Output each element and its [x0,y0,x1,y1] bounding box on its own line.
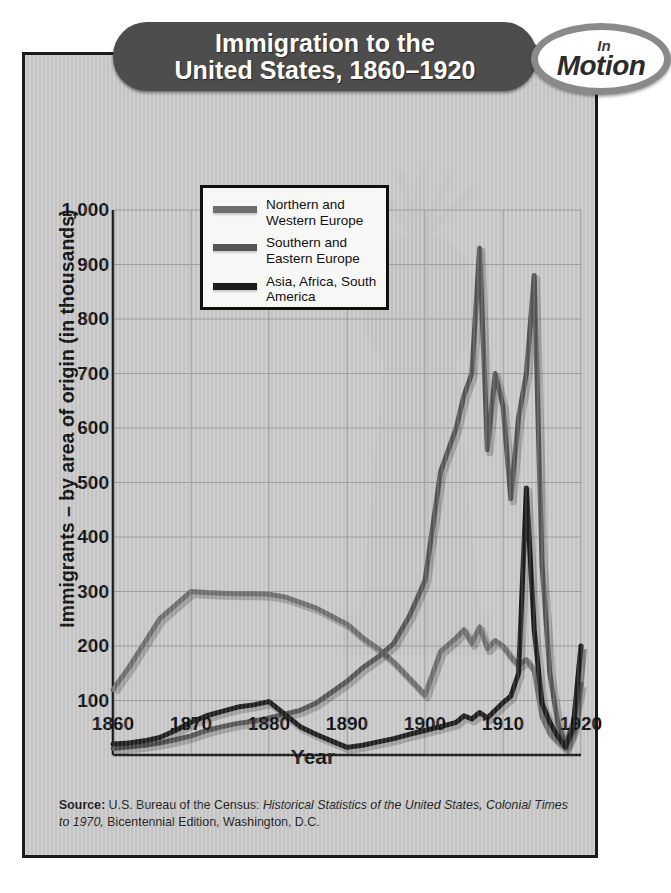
series-paths [113,248,584,751]
x-axis-tick: 1870 [151,713,231,735]
badge-word-motion: Motion [557,53,646,79]
x-axis-tick-labels: 1860187018801890190019101920 [25,713,601,743]
source-text-2: Bicentennial Edition, Washington, D.C. [104,815,320,829]
legend-swatch-icon [213,206,257,213]
y-axis-title: Immigrants – by area of origin (in thous… [56,139,79,699]
title-banner: Immigration to the United States, 1860–1… [113,22,537,91]
title-line-2: United States, 1860–1920 [174,57,475,84]
legend-swatch-icon [213,283,257,290]
legend-label: Asia, Africa, South America [266,274,378,305]
x-axis-title: Year [25,745,601,769]
source-label: Source: [59,798,105,812]
source-text-1: U.S. Bureau of the Census: [105,798,263,812]
chart-legend: Northern and Western Europe Southern and… [200,185,389,310]
legend-item-northern-western-europe: Northern and Western Europe [211,197,378,228]
x-axis-tick: 1860 [73,713,153,735]
chart-panel: 1002003004005006007008009001,000 Immigra… [22,52,598,858]
x-axis-tick: 1900 [385,713,465,735]
in-motion-badge: In Motion [531,23,671,95]
x-axis-tick: 1890 [307,713,387,735]
x-axis-tick: 1910 [463,713,543,735]
legend-swatch-icon [213,244,257,251]
legend-item-asia-africa-south-america: Asia, Africa, South America [211,274,378,305]
legend-label: Northern and Western Europe [266,197,378,228]
plot-wrapper: 1002003004005006007008009001,000 Immigra… [25,55,601,861]
source-italic-1: Historical Statistics of the United Stat… [263,798,483,812]
source-note: Source: U.S. Bureau of the Census: Histo… [59,797,579,830]
badge-wordmark: In Motion [531,23,671,95]
x-axis-tick: 1880 [229,713,309,735]
x-axis-tick: 1920 [541,713,621,735]
legend-item-southern-eastern-europe: Southern and Eastern Europe [211,235,378,266]
legend-label: Southern and Eastern Europe [266,235,378,266]
title-line-1: Immigration to the [215,30,435,57]
